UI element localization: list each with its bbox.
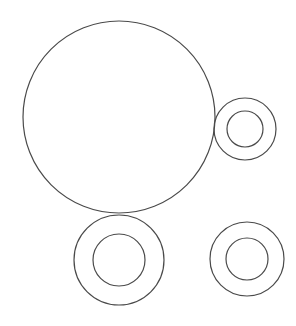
ring-bottom-left: [74, 215, 164, 305]
ring-top-right-outer: [214, 98, 276, 160]
large-circle-group: [23, 21, 215, 213]
ring-bottom-right: [210, 222, 284, 296]
ring-bottom-right-outer: [210, 222, 284, 296]
ring-top-right: [214, 98, 276, 160]
ring-top-right-inner: [227, 111, 263, 147]
ring-bottom-left-outer: [74, 215, 164, 305]
diagram-canvas: [0, 0, 296, 326]
ring-bottom-right-inner: [226, 238, 268, 280]
ring-bottom-left-inner: [93, 234, 145, 286]
large-circle: [23, 21, 215, 213]
